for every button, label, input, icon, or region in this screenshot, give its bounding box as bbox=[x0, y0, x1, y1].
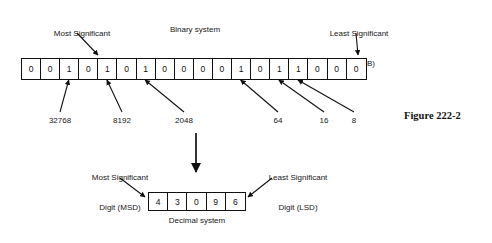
weight-leader-line bbox=[60, 80, 69, 112]
bit-weight-label: 2048 bbox=[158, 116, 210, 125]
weight-leader-line bbox=[107, 80, 122, 112]
weight-leader-line bbox=[279, 80, 324, 112]
bit-weight-label: 64 bbox=[252, 116, 304, 125]
bit-weight-label: 8192 bbox=[96, 116, 148, 125]
bit-weight-label: 32768 bbox=[34, 116, 86, 125]
binary-decimal-conversion-figure: Most Significant Bit (MSB) Binary system… bbox=[0, 0, 492, 243]
msb-pointer-arrow bbox=[77, 33, 98, 55]
lsb-pointer-arrow bbox=[356, 33, 358, 55]
weight-leader-line bbox=[145, 80, 184, 112]
weight-leader-line bbox=[241, 80, 278, 112]
lsd-pointer-arrow bbox=[248, 178, 272, 197]
msd-pointer-arrow bbox=[120, 178, 145, 197]
weight-leader-lines bbox=[60, 80, 354, 112]
bit-weight-label: 8 bbox=[328, 116, 380, 125]
weight-leader-line bbox=[298, 80, 354, 112]
